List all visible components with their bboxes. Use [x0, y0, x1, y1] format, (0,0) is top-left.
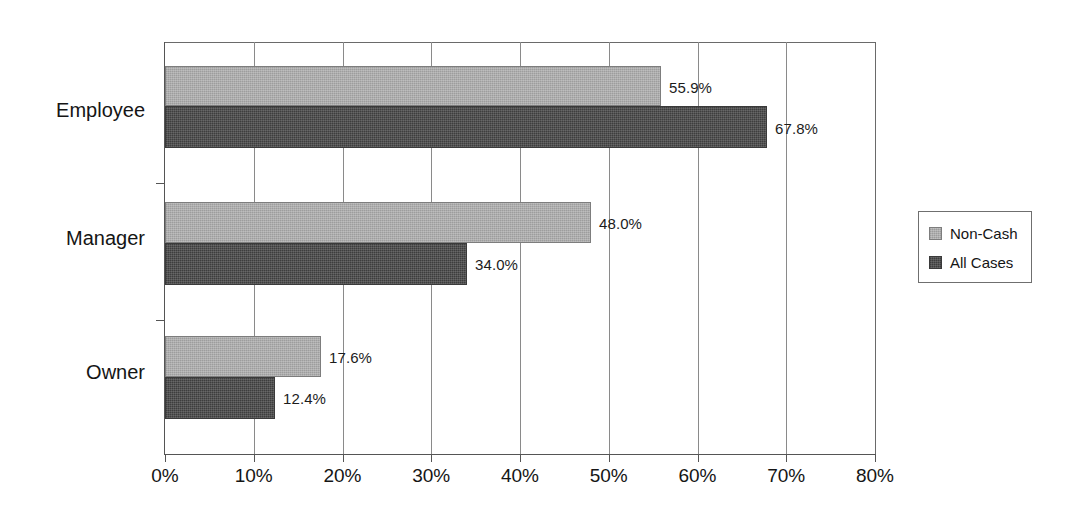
bar-label-manager-all-cases: 34.0%: [475, 257, 518, 272]
x-axis-tick-label-0: 0%: [151, 466, 178, 485]
y-tick-employee-manager: [156, 183, 165, 184]
x-tick-10: [254, 454, 255, 462]
bar-employee-non-cash: [165, 66, 661, 106]
x-tick-50: [609, 454, 610, 462]
gridline-70: [786, 42, 787, 455]
x-axis-tick-label-50: 50%: [590, 466, 628, 485]
bar-label-employee-all-cases: 67.8%: [775, 121, 818, 136]
x-axis-tick-label-20: 20%: [323, 466, 361, 485]
gridline-80: [875, 42, 876, 455]
bar-owner-non-cash: [165, 336, 321, 377]
bar-label-manager-non-cash: 48.0%: [599, 216, 642, 231]
x-tick-40: [520, 454, 521, 462]
gridline-60: [698, 42, 699, 455]
legend-label-non-cash: Non-Cash: [950, 226, 1018, 241]
legend-swatch-all-cases-icon: [929, 256, 942, 269]
bar-chart-figure: 55.9% 67.8% Employee 48.0% 34.0% Manager…: [0, 0, 1084, 511]
y-tick-manager-owner: [156, 320, 165, 321]
x-axis-tick-label-80: 80%: [856, 466, 894, 485]
x-axis-tick-label-70: 70%: [767, 466, 805, 485]
x-tick-60: [698, 454, 699, 462]
y-axis-label-owner: Owner: [0, 362, 145, 382]
legend: Non-Cash All Cases: [918, 211, 1032, 283]
x-axis-tick-label-30: 30%: [412, 466, 450, 485]
y-axis-label-manager: Manager: [0, 228, 145, 248]
x-tick-0: [165, 454, 166, 462]
bar-manager-non-cash: [165, 202, 591, 243]
legend-label-all-cases: All Cases: [950, 255, 1013, 270]
legend-item-non-cash: Non-Cash: [929, 226, 1018, 241]
x-tick-70: [786, 454, 787, 462]
legend-item-all-cases: All Cases: [929, 255, 1013, 270]
y-axis-label-employee: Employee: [0, 100, 145, 120]
x-axis-tick-label-40: 40%: [501, 466, 539, 485]
bar-employee-all-cases: [165, 106, 767, 148]
bar-label-employee-non-cash: 55.9%: [669, 80, 712, 95]
legend-swatch-non-cash-icon: [929, 227, 942, 240]
bar-label-owner-all-cases: 12.4%: [283, 391, 326, 406]
x-tick-20: [343, 454, 344, 462]
bar-manager-all-cases: [165, 243, 467, 285]
x-axis-tick-label-60: 60%: [678, 466, 716, 485]
x-axis-tick-label-10: 10%: [235, 466, 273, 485]
x-tick-80: [875, 454, 876, 462]
bar-owner-all-cases: [165, 377, 275, 419]
bar-label-owner-non-cash: 17.6%: [329, 350, 372, 365]
x-tick-30: [431, 454, 432, 462]
